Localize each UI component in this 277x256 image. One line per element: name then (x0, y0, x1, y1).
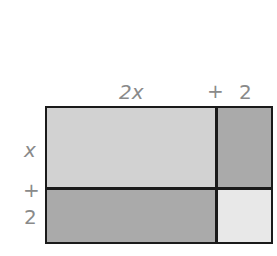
top-label-plus: + (207, 81, 224, 101)
vertical-divider (215, 106, 218, 244)
outer-border (45, 106, 273, 244)
side-label-plus: + (23, 180, 40, 200)
side-label-2: 2 (24, 207, 37, 227)
horizontal-divider (45, 187, 273, 190)
top-label-2x: 2x (119, 82, 144, 102)
top-label-2: 2 (239, 82, 252, 102)
side-label-x: x (24, 140, 36, 160)
